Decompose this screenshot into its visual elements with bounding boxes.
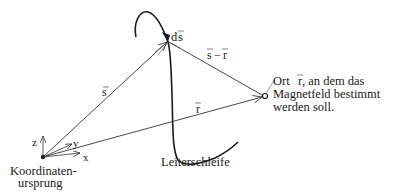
label-ds: d s bbox=[171, 30, 184, 44]
svg-text:r: r bbox=[223, 48, 227, 62]
label-s-minus-r: s − r bbox=[207, 48, 228, 62]
svg-text:r: r bbox=[196, 102, 200, 116]
svg-text:d: d bbox=[171, 30, 178, 44]
label-axis-y: y bbox=[73, 137, 79, 149]
label-axis-x: x bbox=[83, 151, 89, 163]
field-point-description: Ort r , an dem das Magnetfeld bestimmt w… bbox=[273, 74, 381, 114]
svg-text:Ort: Ort bbox=[273, 74, 290, 88]
svg-text:werden soll.: werden soll. bbox=[273, 100, 334, 114]
svg-text:−: − bbox=[214, 48, 221, 62]
biot-savart-diagram: z y x Koordinaten- ursprung Leiterschlei… bbox=[0, 0, 395, 193]
svg-text:s: s bbox=[178, 30, 183, 44]
svg-text:Magnetfeld bestimmt: Magnetfeld bestimmt bbox=[273, 87, 381, 101]
axis-x bbox=[43, 153, 80, 157]
svg-text:s: s bbox=[102, 85, 107, 99]
ds-arrowhead-icon bbox=[162, 32, 170, 42]
label-loop: Leiterschleife bbox=[161, 155, 230, 169]
svg-text:, an dem das: , an dem das bbox=[302, 74, 365, 88]
field-point-marker bbox=[263, 94, 268, 99]
label-axis-z: z bbox=[32, 136, 37, 148]
label-origin-line2: ursprung bbox=[18, 176, 63, 190]
conductor-loop bbox=[135, 12, 238, 165]
svg-text:s: s bbox=[207, 48, 212, 62]
